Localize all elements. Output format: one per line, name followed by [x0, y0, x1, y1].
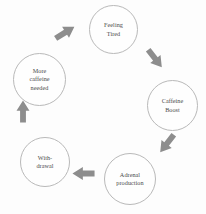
- arrow-left-icon: [72, 167, 95, 180]
- node-label-more-caffeine-needed: More caffeine needed: [26, 67, 52, 92]
- node-label-withdrawal: With- drawal: [33, 154, 56, 171]
- node-caffeine-boost: Caffeine Boost: [147, 80, 198, 131]
- arrow-up-right-icon: [51, 21, 78, 45]
- arrow-down-left-icon: [154, 130, 179, 157]
- node-withdrawal: With- drawal: [20, 137, 70, 187]
- arrow-down-right-icon: [142, 45, 167, 72]
- node-more-caffeine-needed: More caffeine needed: [13, 53, 66, 106]
- node-adrenal-production: Adrenal production: [104, 153, 156, 205]
- node-feeling-tired: Feeling Tired: [89, 5, 138, 54]
- arrow-up-icon: [17, 101, 30, 123]
- node-label-caffeine-boost: Caffeine Boost: [159, 97, 187, 114]
- node-label-adrenal-production: Adrenal production: [113, 171, 146, 188]
- cycle-diagram-canvas: Feeling Tired Caffeine Boost Adrenal pro…: [0, 0, 206, 214]
- node-label-feeling-tired: Feeling Tired: [101, 21, 126, 38]
